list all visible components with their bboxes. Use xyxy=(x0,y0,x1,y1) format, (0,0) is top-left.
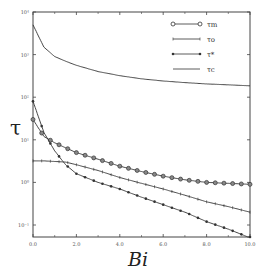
series-τ* xyxy=(32,100,252,238)
series-τm xyxy=(31,117,252,186)
y-tick-label: 10⁰ xyxy=(21,179,29,185)
y-tick-label: 10¹ xyxy=(21,137,29,143)
x-tick-label: 2.0 xyxy=(72,241,80,247)
legend-label: τm xyxy=(207,21,218,29)
plot-frame xyxy=(33,12,250,237)
legend-item: τo xyxy=(173,36,215,44)
legend-label: τc xyxy=(207,66,215,74)
x-tick-label: 6.0 xyxy=(159,241,167,247)
legend-label: τo xyxy=(207,36,215,44)
y-axis-title: τ xyxy=(10,116,21,140)
legend-item: τc xyxy=(173,66,215,74)
legend-item: τm xyxy=(171,21,218,29)
legend-item: τ* xyxy=(172,51,215,59)
x-tick-label: 0.0 xyxy=(29,241,37,247)
x-tick-label: 10.0 xyxy=(244,241,255,247)
series-group xyxy=(31,25,252,239)
y-tick-label: 10³ xyxy=(21,52,29,58)
y-axis-ticks: 10⁴10³10²10¹10⁰10⁻¹ xyxy=(18,9,250,228)
series-τc xyxy=(33,25,250,86)
y-tick-label: 10² xyxy=(21,94,29,100)
legend: τmτoτ*τc xyxy=(171,21,218,74)
y-tick-label: 10⁴ xyxy=(21,9,29,15)
legend-label: τ* xyxy=(207,51,215,59)
x-axis-title: Bi xyxy=(127,248,148,270)
chart: 0.02.04.06.08.010.0 10⁴10³10²10¹10⁰10⁻¹ … xyxy=(0,0,261,273)
x-axis-ticks: 0.02.04.06.08.010.0 xyxy=(29,12,256,247)
series-τo xyxy=(33,159,250,213)
x-tick-label: 4.0 xyxy=(116,241,124,247)
x-tick-label: 8.0 xyxy=(203,241,211,247)
y-tick-label: 10⁻¹ xyxy=(18,222,29,228)
